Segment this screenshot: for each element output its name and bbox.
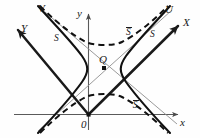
X-axis-label: X xyxy=(183,17,190,28)
origin-point-marker xyxy=(87,113,91,117)
curve-label-Sbar-lower: S̅ xyxy=(133,101,138,111)
y-axis-label: y xyxy=(77,8,82,19)
center-point-Q-marker xyxy=(102,66,106,70)
figure-canvas xyxy=(0,0,200,138)
dashed-branch-upper xyxy=(40,6,168,45)
x-axis-label: x xyxy=(180,117,185,128)
Y-axis-label: Y xyxy=(21,23,27,34)
center-label-Q: Q xyxy=(99,54,107,65)
asymptote-v-label: V xyxy=(38,3,45,14)
curve-label-S-left: S xyxy=(54,34,59,44)
asymptote-u-label: U xyxy=(165,4,173,15)
curve-label-S-right: S xyxy=(150,30,155,40)
hyperbola-figure: V U X Y y x 0 Q S S S̅ S̅ xyxy=(0,0,200,138)
origin-label: 0 xyxy=(81,119,87,130)
curve-label-Sbar-upper: S̅ xyxy=(126,28,131,38)
